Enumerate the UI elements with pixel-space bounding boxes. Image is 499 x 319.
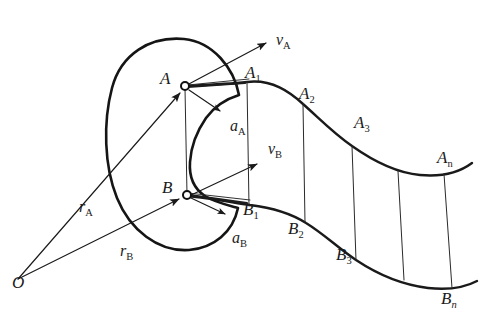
label-A3: A3: [353, 113, 370, 134]
connector-2: [303, 104, 305, 222]
label-vector-rB: rB: [120, 242, 133, 262]
rod-segments-short: [188, 83, 247, 203]
rod-ab-initial: [185, 88, 187, 194]
connector-1: [247, 82, 249, 206]
label-origin: O: [12, 273, 24, 292]
label-Bn: Bn: [441, 289, 457, 310]
vector-rA: [18, 93, 180, 279]
label-vector-vB: vB: [268, 140, 282, 160]
label-vector-aB: aB: [232, 229, 247, 249]
vector-aA: [189, 90, 220, 111]
label-point-A: A: [159, 69, 171, 88]
connector-5: [444, 174, 452, 288]
label-A2: A2: [298, 84, 315, 105]
kinematics-figure: O A B A1 A2 A3 An B1 B2: [0, 0, 499, 319]
vector-label-group: rA rB vA vB aA aB: [79, 31, 291, 262]
label-vector-vA: vA: [276, 31, 291, 51]
label-An: An: [436, 148, 453, 169]
label-B1: B1: [243, 200, 259, 221]
connector-3: [352, 146, 356, 260]
label-A1: A1: [244, 63, 261, 84]
label-point-B: B: [162, 178, 173, 197]
label-B2: B2: [288, 219, 304, 240]
label-B3: B3: [336, 245, 352, 266]
vector-vB: [189, 164, 257, 196]
upper-trajectory-curve: [186, 82, 472, 176]
connector-4: [398, 171, 404, 280]
lower-track-label-group: B1 B2 B3 Bn: [243, 200, 457, 310]
point-marker-B: [183, 191, 191, 199]
label-vector-aA: aA: [230, 117, 246, 137]
point-marker-A: [181, 82, 189, 90]
figure-canvas: O A B A1 A2 A3 An B1 B2: [0, 0, 499, 319]
vector-rB: [18, 199, 179, 279]
rigid-body-outline: [106, 39, 239, 250]
